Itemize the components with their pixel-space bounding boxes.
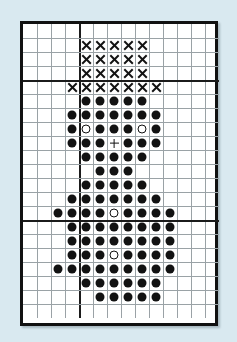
filled-dot-icon — [96, 265, 105, 274]
grid-cell — [121, 262, 135, 276]
filled-dot-icon — [124, 111, 133, 120]
cross-mark-icon — [151, 82, 162, 93]
filled-dot-icon — [96, 209, 105, 218]
grid-cell — [65, 108, 79, 122]
filled-dot-icon — [96, 111, 105, 120]
cross-mark-icon — [123, 82, 134, 93]
grid-cell — [149, 80, 163, 94]
grid-cell — [79, 150, 93, 164]
filled-dot-icon — [82, 111, 91, 120]
grid-cell — [93, 38, 107, 52]
filled-dot-icon — [82, 237, 91, 246]
grid-cell — [121, 108, 135, 122]
grid-area — [23, 24, 219, 318]
grid-cell — [93, 234, 107, 248]
grid-cell — [93, 122, 107, 136]
grid-cell — [107, 276, 121, 290]
grid-cell — [121, 122, 135, 136]
grid-cell — [107, 290, 121, 304]
grid-cell — [135, 220, 149, 234]
grid-cell — [93, 164, 107, 178]
grid-cell — [135, 52, 149, 66]
grid-cell — [79, 136, 93, 150]
grid-cell — [121, 206, 135, 220]
filled-dot-icon — [124, 125, 133, 134]
grid-line-vertical — [205, 24, 206, 318]
grid-cell — [51, 206, 65, 220]
grid-cell — [149, 248, 163, 262]
grid-cell — [121, 164, 135, 178]
filled-dot-icon — [138, 111, 147, 120]
grid-cell — [149, 122, 163, 136]
grid-cell — [121, 150, 135, 164]
filled-dot-icon — [96, 97, 105, 106]
filled-dot-icon — [138, 209, 147, 218]
filled-dot-icon — [110, 153, 119, 162]
grid-cell — [121, 94, 135, 108]
filled-dot-icon — [68, 223, 77, 232]
filled-dot-icon — [82, 265, 91, 274]
grid-cell — [121, 192, 135, 206]
grid-cell — [79, 192, 93, 206]
filled-dot-icon — [138, 251, 147, 260]
filled-dot-icon — [124, 293, 133, 302]
cross-mark-icon — [109, 54, 120, 65]
grid-cell — [163, 206, 177, 220]
grid-cell — [121, 276, 135, 290]
grid-cell — [163, 220, 177, 234]
cross-mark-icon — [137, 68, 148, 79]
grid-cell — [79, 108, 93, 122]
grid-cell — [107, 248, 121, 262]
filled-dot-icon — [96, 223, 105, 232]
filled-dot-icon — [152, 195, 161, 204]
grid-cell — [107, 66, 121, 80]
cross-mark-icon — [123, 54, 134, 65]
filled-dot-icon — [124, 279, 133, 288]
filled-dot-icon — [152, 237, 161, 246]
grid-cell — [135, 192, 149, 206]
filled-dot-icon — [110, 279, 119, 288]
cross-mark-icon — [95, 54, 106, 65]
grid-cell — [93, 52, 107, 66]
grid-cell — [93, 80, 107, 94]
grid-cell — [93, 262, 107, 276]
filled-dot-icon — [96, 153, 105, 162]
filled-dot-icon — [138, 237, 147, 246]
filled-dot-icon — [82, 139, 91, 148]
grid-cell — [149, 192, 163, 206]
grid-cell — [121, 178, 135, 192]
grid-cell — [65, 136, 79, 150]
grid-cell — [135, 80, 149, 94]
cross-mark-icon — [109, 40, 120, 51]
filled-dot-icon — [152, 279, 161, 288]
grid-cell — [121, 66, 135, 80]
filled-dot-icon — [124, 237, 133, 246]
grid-cell — [93, 136, 107, 150]
grid-cell — [51, 262, 65, 276]
grid-cell — [149, 108, 163, 122]
cross-mark-icon — [109, 82, 120, 93]
plus-mark-icon — [110, 139, 119, 148]
filled-dot-icon — [110, 97, 119, 106]
grid-cell — [135, 108, 149, 122]
grid-cell — [107, 136, 121, 150]
filled-dot-icon — [96, 293, 105, 302]
grid-cell — [121, 80, 135, 94]
filled-dot-icon — [138, 139, 147, 148]
filled-dot-icon — [110, 195, 119, 204]
grid-cell — [149, 290, 163, 304]
filled-dot-icon — [68, 195, 77, 204]
filled-dot-icon — [138, 181, 147, 190]
filled-dot-icon — [152, 293, 161, 302]
grid-cell — [93, 220, 107, 234]
grid-cell — [149, 276, 163, 290]
grid-cell — [93, 150, 107, 164]
grid-cell — [93, 206, 107, 220]
cross-mark-icon — [81, 40, 92, 51]
grid-cell — [65, 262, 79, 276]
grid-cell — [135, 290, 149, 304]
grid-cell — [79, 234, 93, 248]
grid-cell — [149, 220, 163, 234]
grid-cell — [135, 248, 149, 262]
filled-dot-icon — [152, 223, 161, 232]
